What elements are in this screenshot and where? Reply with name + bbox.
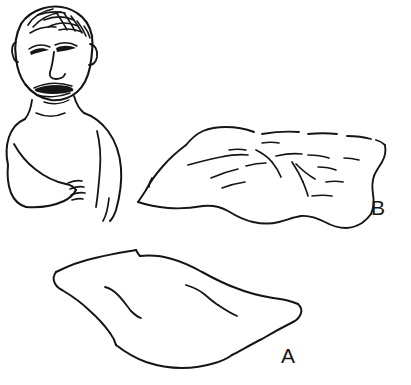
blanket-a: A <box>54 250 302 368</box>
nose <box>50 52 65 79</box>
body-side-lower <box>103 198 109 221</box>
blanket-b: B <box>138 127 385 228</box>
drawing-canvas: B <box>0 0 411 385</box>
folded-arm <box>8 144 76 207</box>
blanket-b-left-edge <box>138 145 186 202</box>
chest-contour <box>96 131 100 207</box>
blanket-b-top-edge <box>186 127 385 145</box>
label-b: B <box>371 196 385 219</box>
drawing-svg: B <box>0 0 411 385</box>
label-a: A <box>281 344 295 367</box>
blanket-b-bottom-edge <box>138 202 371 228</box>
blanket-a-bottom-edge <box>110 333 232 368</box>
blanket-a-left-edge <box>54 272 110 333</box>
blanket-a-top-edge <box>56 250 298 304</box>
hair <box>26 9 90 38</box>
child-figure <box>7 7 122 221</box>
blanket-a-wrinkles <box>105 285 237 318</box>
blanket-b-wrinkles <box>188 142 359 196</box>
mouth <box>34 84 73 97</box>
torso <box>7 113 122 221</box>
